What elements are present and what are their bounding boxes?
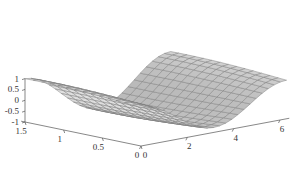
surface-mesh	[25, 52, 287, 129]
z-tick-label: -0.5	[5, 106, 20, 116]
y-tick	[141, 146, 142, 149]
z-tick-label: 0	[15, 95, 20, 105]
z-tick	[22, 122, 25, 123]
x-tick-label: 6	[280, 124, 285, 134]
x-tick	[140, 146, 142, 149]
z-tick	[22, 79, 25, 80]
x-tick-label: 0	[143, 150, 148, 160]
x-tick-label: 4	[233, 133, 238, 143]
z-tick-label: 0.5	[8, 84, 20, 94]
y-tick-label: 1	[57, 134, 62, 144]
z-tick-label: 1	[15, 74, 20, 84]
z-tick	[22, 111, 25, 112]
z-tick	[22, 89, 25, 90]
y-tick-label: 1.5	[15, 126, 27, 136]
y-tick-label: 0	[135, 150, 140, 160]
x-tick-label: 2	[187, 141, 192, 151]
z-tick-label: -1	[12, 117, 20, 127]
surface-plot: 024600.511.5-1-0.500.51	[0, 0, 296, 183]
y-tick-label: 0.5	[93, 142, 105, 152]
y-axis-line	[21, 121, 141, 146]
z-tick	[22, 100, 25, 101]
